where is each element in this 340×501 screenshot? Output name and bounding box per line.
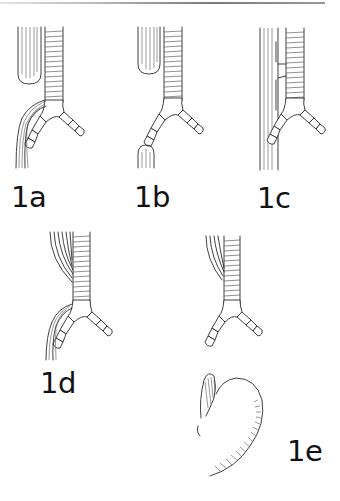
trachea-icon (53, 232, 112, 348)
proximal-esophagus-fistula-icon (206, 236, 224, 280)
panel-1d-illustration (0, 220, 170, 380)
esophagus-icon (260, 28, 286, 170)
trachea-icon (144, 27, 203, 146)
proximal-esophagus-fistula-icon (50, 232, 73, 282)
panel-1c-label: 1c (257, 184, 290, 213)
esophageal-pouch-icon (138, 27, 160, 74)
panel-1b-illustration (120, 0, 230, 185)
distal-esophageal-stump-icon (138, 145, 154, 168)
panel-1a-illustration (0, 0, 110, 185)
trachea-icon (205, 236, 262, 346)
panel-1c-illustration (230, 0, 340, 185)
esophageal-pouch-icon (18, 27, 41, 84)
panel-1b-label: 1b (134, 183, 170, 212)
panel-1a-label: 1a (11, 183, 46, 212)
panel-1d-label: 1d (40, 369, 76, 398)
panel-1e-label: 1e (287, 437, 322, 466)
stomach-icon (197, 374, 262, 476)
